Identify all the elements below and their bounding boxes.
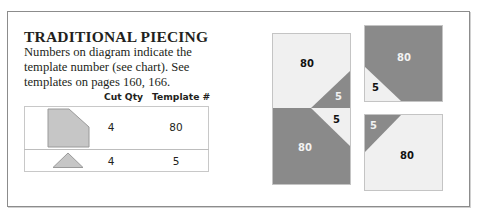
section-description: Numbers on diagram indicate the template…	[24, 45, 234, 90]
top-right-block-label-5: 5	[372, 82, 379, 93]
tall-block-label-top-80: 80	[300, 58, 314, 69]
column-header-template: Template #	[152, 91, 210, 102]
template-5-shape-icon	[52, 152, 85, 169]
column-header-cut-qty: Cut Qty	[104, 91, 143, 102]
tall-block-diagram	[272, 33, 351, 185]
row-1-cut-qty: 4	[96, 121, 126, 133]
bottom-right-block-label-5: 5	[370, 120, 377, 131]
row-2-cut-qty: 4	[96, 155, 126, 167]
section-title: TRADITIONAL PIECING	[24, 28, 208, 46]
row-2-template-number: 5	[161, 155, 191, 167]
template-80-shape-icon	[47, 108, 91, 149]
row-1-template-number: 80	[161, 121, 191, 133]
tall-block-label-bottom-5: 5	[333, 114, 340, 125]
tall-block-label-top-5: 5	[335, 91, 342, 102]
top-right-block-label-80: 80	[397, 52, 411, 63]
tall-block-label-bottom-80: 80	[298, 142, 312, 153]
table-row-divider	[24, 149, 209, 150]
bottom-right-block-label-80: 80	[400, 150, 414, 161]
